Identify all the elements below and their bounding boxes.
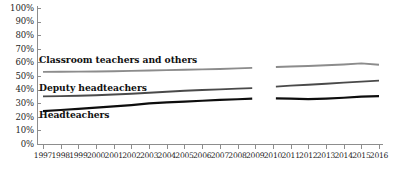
series-line-0-segment-1 xyxy=(276,63,379,67)
series-label-0: Classroom teachers and others xyxy=(39,55,197,64)
series-label-1: Deputy headteachers xyxy=(39,83,147,92)
series-label-2: Headteachers xyxy=(39,110,109,119)
series-line-0-segment-0 xyxy=(43,68,252,72)
series-line-2-segment-1 xyxy=(276,96,379,99)
series-line-1-segment-1 xyxy=(276,81,379,87)
chart-container: 0%10%20%30%40%50%60%70%80%90%100% 199719… xyxy=(0,0,401,170)
